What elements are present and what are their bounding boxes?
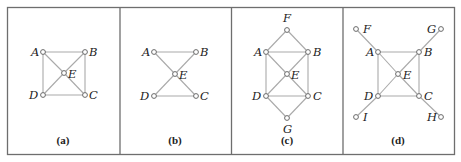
panel-caption: (b) <box>168 134 182 147</box>
edge-C-G <box>287 96 308 118</box>
vertex-G <box>285 116 290 121</box>
vertex-D <box>264 94 269 99</box>
edge-E-D <box>378 74 398 96</box>
vertex-label-D: D <box>251 89 261 103</box>
vertex-E <box>62 71 67 76</box>
vertex-A <box>152 50 157 55</box>
vertices <box>264 28 311 121</box>
panel-b: ABEDC(b) <box>139 45 209 147</box>
edge-D-G <box>266 96 287 118</box>
edge-A-E <box>43 52 64 73</box>
vertex-label-A: A <box>30 45 39 59</box>
vertex-label-D: D <box>28 88 38 102</box>
vertex-C <box>194 94 199 99</box>
panel-caption: (a) <box>57 134 70 147</box>
vertex-C <box>306 94 311 99</box>
vertex-A <box>41 50 46 55</box>
vertex-G <box>439 27 444 32</box>
graph-figure: ABEDC(a)ABEDC(b)FABEDCG(c)FGABEDCIH(d) <box>0 0 461 162</box>
vertex-label-G: G <box>427 22 436 36</box>
vertex-label-C: C <box>200 89 209 103</box>
vertex-label-I: I <box>362 110 368 124</box>
edge-A-E <box>154 52 175 74</box>
edge-F-A <box>266 30 287 52</box>
vertex-label-A: A <box>141 45 150 59</box>
vertex-label-B: B <box>312 45 321 59</box>
vertex-label-D: D <box>363 89 373 103</box>
panel-d: FGABEDCIH(d) <box>354 22 444 147</box>
vertex-B <box>417 50 422 55</box>
vertex-F <box>354 27 359 32</box>
vertex-label-E: E <box>178 68 188 82</box>
edge-F-B <box>287 30 308 52</box>
edge-A-E <box>266 52 287 74</box>
edge-E-D <box>266 74 287 96</box>
vertex-D <box>41 93 46 98</box>
vertex-A <box>264 50 269 55</box>
vertex-label-B: B <box>423 45 432 59</box>
vertex-E <box>173 72 178 77</box>
vertex-label-C: C <box>89 88 98 102</box>
vertex-label-H: H <box>426 110 438 124</box>
vertex-C <box>417 94 422 99</box>
edge-A-E <box>378 52 398 74</box>
vertex-C <box>83 93 88 98</box>
vertex-label-B: B <box>88 45 97 59</box>
vertex-label-E: E <box>67 67 77 81</box>
vertex-label-C: C <box>313 89 322 103</box>
panel-caption: (d) <box>391 134 405 147</box>
vertex-label-F: F <box>282 11 292 25</box>
vertex-B <box>194 50 199 55</box>
vertex-I <box>354 115 359 120</box>
vertex-label-A: A <box>253 45 262 59</box>
vertex-D <box>152 94 157 99</box>
vertex-B <box>306 50 311 55</box>
vertex-label-E: E <box>290 68 300 82</box>
vertex-label-F: F <box>362 22 372 36</box>
vertex-H <box>439 115 444 120</box>
vertex-label-E: E <box>402 68 412 82</box>
panels: ABEDC(a)ABEDC(b)FABEDCG(c)FGABEDCIH(d) <box>28 11 443 147</box>
vertex-F <box>285 28 290 33</box>
vertex-D <box>376 94 381 99</box>
panel-c: FABEDCG(c) <box>251 11 322 147</box>
vertex-E <box>396 72 401 77</box>
vertex-label-B: B <box>199 45 208 59</box>
vertex-B <box>83 50 88 55</box>
vertex-E <box>285 72 290 77</box>
panel-caption: (c) <box>281 134 294 147</box>
vertex-label-C: C <box>424 89 433 103</box>
vertex-label-A: A <box>365 45 374 59</box>
panel-dividers <box>120 8 343 155</box>
edge-E-D <box>154 74 175 96</box>
panel-a: ABEDC(a) <box>28 45 98 147</box>
edge-E-D <box>43 73 64 95</box>
vertex-A <box>376 50 381 55</box>
vertex-label-D: D <box>139 89 149 103</box>
